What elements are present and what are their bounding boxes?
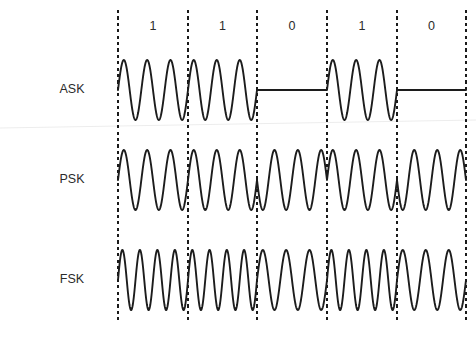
bit-value-label: 0 [289,19,296,33]
row-label-psk: PSK [59,172,85,186]
faint-horizontal-rule [0,120,476,128]
row-label-fsk: FSK [60,272,85,286]
bit-value-label: 0 [428,19,435,33]
bit-value-label: 1 [219,19,226,33]
waveform-canvas: 11010 ASKPSKFSK [0,0,476,344]
modulation-diagram: 11010 ASKPSKFSK [0,0,476,344]
ask-waveform [118,60,466,120]
row-label-ask: ASK [59,82,85,96]
fsk-waveform [118,250,466,310]
bit-value-label: 1 [359,19,366,33]
bit-label-row: 11010 [150,19,436,33]
waveform-group [118,60,466,310]
psk-waveform [118,150,466,210]
bit-value-label: 1 [150,19,157,33]
row-label-group: ASKPSKFSK [59,82,85,286]
